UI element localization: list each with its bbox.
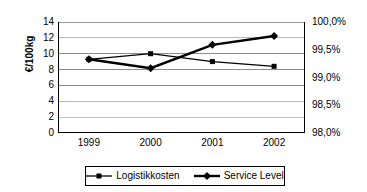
legend-marker-diamond-icon bbox=[194, 171, 220, 181]
data-point-service-level-1999 bbox=[85, 55, 93, 63]
data-point-service-level-2001 bbox=[208, 41, 216, 49]
right-tick-99-5: 99,5% bbox=[312, 45, 340, 55]
left-tick-2: 2 bbox=[48, 112, 54, 122]
line-chart: €/100kg 14 12 10 8 6 4 2 0 100,0% 99,5% … bbox=[0, 0, 367, 192]
right-axis-tick-labels: 100,0% 99,5% 99,0% 98,5% 98,0% bbox=[312, 0, 364, 192]
right-tick-99-0: 99,0% bbox=[312, 73, 340, 83]
chart-legend: Logistikkosten Service Level bbox=[85, 166, 285, 186]
data-point-service-level-2002 bbox=[270, 32, 278, 40]
right-tick-100-0: 100,0% bbox=[312, 17, 346, 27]
left-tick-0: 0 bbox=[48, 128, 54, 138]
legend-item-logistikkosten: Logistikkosten bbox=[86, 171, 179, 181]
right-tick-98-5: 98,5% bbox=[312, 100, 340, 110]
data-point-logistikkosten-2000 bbox=[148, 51, 153, 56]
left-tick-14: 14 bbox=[43, 17, 54, 27]
axis-lines bbox=[58, 22, 305, 133]
left-tick-12: 12 bbox=[43, 33, 54, 43]
right-tick-98-0: 98,0% bbox=[312, 128, 340, 138]
legend-label-logistikkosten: Logistikkosten bbox=[116, 171, 179, 181]
legend-marker-square-icon bbox=[86, 171, 112, 181]
data-point-service-level-2000 bbox=[147, 64, 155, 72]
left-tick-6: 6 bbox=[48, 80, 54, 90]
plot-svg bbox=[58, 22, 305, 133]
left-axis-tick-labels: 14 12 10 8 6 4 2 0 bbox=[26, 0, 54, 192]
x-axis-tick-labels: 1999 2000 2001 2002 bbox=[58, 136, 305, 152]
plot-area bbox=[58, 22, 305, 133]
series-service-level-line bbox=[89, 36, 274, 68]
legend-item-service-level: Service Level bbox=[194, 171, 284, 181]
data-point-logistikkosten-2002 bbox=[272, 64, 277, 69]
data-point-logistikkosten-2001 bbox=[210, 59, 215, 64]
x-tick-2001: 2001 bbox=[182, 136, 244, 152]
x-tick-2002: 2002 bbox=[243, 136, 305, 152]
left-tick-4: 4 bbox=[48, 96, 54, 106]
x-tick-1999: 1999 bbox=[58, 136, 120, 152]
left-tick-8: 8 bbox=[48, 65, 54, 75]
x-tick-2000: 2000 bbox=[120, 136, 182, 152]
legend-label-service-level: Service Level bbox=[224, 171, 284, 181]
left-tick-10: 10 bbox=[43, 49, 54, 59]
